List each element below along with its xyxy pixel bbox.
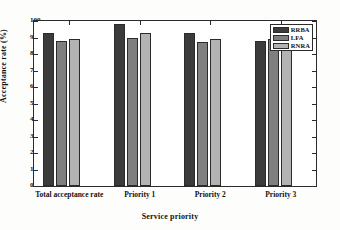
bar-group: Priority 1 bbox=[105, 21, 176, 186]
x-tick-label: Priority 1 bbox=[105, 190, 176, 199]
y-axis-title: Acceptance rate (%) bbox=[0, 29, 8, 103]
legend-label-rnra: RNRA bbox=[291, 42, 310, 49]
bar-rnra-3[interactable] bbox=[210, 39, 221, 186]
bar-group: Priority 2 bbox=[175, 21, 246, 186]
legend-item-rnra[interactable]: RNRA bbox=[273, 42, 310, 49]
bar-rnra-2[interactable] bbox=[140, 33, 151, 186]
x-tick-mark bbox=[69, 21, 70, 25]
bar-rrba-3[interactable] bbox=[184, 33, 195, 186]
x-tick-mark bbox=[140, 182, 141, 186]
legend-label-rrba: RRBA bbox=[291, 26, 310, 33]
x-tick-mark bbox=[281, 182, 282, 186]
legend-swatch-rnra bbox=[273, 43, 289, 49]
x-tick-label: Priority 2 bbox=[175, 190, 246, 199]
plot-area: Total acceptance ratePriority 1Priority … bbox=[33, 20, 317, 187]
bar-rnra-4[interactable] bbox=[281, 41, 292, 186]
bar-rrba-4[interactable] bbox=[255, 41, 266, 186]
legend-item-lfa[interactable]: LFA bbox=[273, 34, 310, 41]
bar-lfa-4[interactable] bbox=[268, 39, 279, 186]
x-tick-mark bbox=[140, 21, 141, 25]
bar-rnra-1[interactable] bbox=[69, 39, 80, 186]
bar-rrba-2[interactable] bbox=[114, 24, 125, 186]
legend-item-rrba[interactable]: RRBA bbox=[273, 26, 310, 33]
bar-rrba-1[interactable] bbox=[43, 33, 54, 186]
chart-legend[interactable]: RRBALFARNRA bbox=[270, 24, 313, 51]
x-axis-title: Service priority bbox=[0, 212, 340, 221]
bar-group: Total acceptance rate bbox=[34, 21, 105, 186]
x-tick-label: Priority 3 bbox=[246, 190, 317, 199]
x-tick-mark bbox=[210, 182, 211, 186]
legend-swatch-lfa bbox=[273, 35, 289, 41]
y-tick-mark bbox=[312, 186, 316, 187]
legend-swatch-rrba bbox=[273, 27, 289, 33]
bar-lfa-3[interactable] bbox=[197, 42, 208, 186]
figure-canvas: Acceptance rate (%) 01020304050607080901… bbox=[0, 0, 340, 230]
bar-lfa-1[interactable] bbox=[56, 41, 67, 186]
x-tick-mark bbox=[210, 21, 211, 25]
bar-lfa-2[interactable] bbox=[127, 38, 138, 187]
y-tick-mark bbox=[34, 186, 38, 187]
x-tick-mark bbox=[69, 182, 70, 186]
legend-label-lfa: LFA bbox=[291, 34, 304, 41]
x-tick-label: Total acceptance rate bbox=[34, 190, 105, 199]
